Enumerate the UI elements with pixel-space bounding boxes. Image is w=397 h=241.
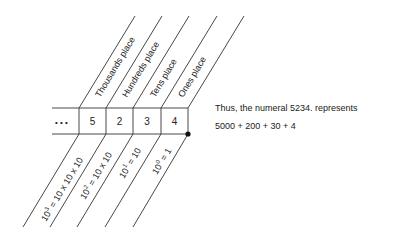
- label-ones-place: Ones place: [176, 55, 208, 99]
- digit-ones: 4: [172, 116, 178, 127]
- power-ones: 100 = 1: [149, 146, 173, 176]
- decimal-point-dot: [185, 131, 190, 136]
- caption-line-1: Thus, the numeral 5234. represents: [215, 103, 358, 113]
- digit-hundreds: 2: [117, 116, 123, 127]
- ellipsis-text: • • •: [55, 118, 68, 127]
- power-tens: 101 = 10: [116, 146, 143, 181]
- place-value-diagram: • • • 5 2 3 4 Thousands place Hundreds p…: [0, 0, 397, 241]
- digit-thousands: 5: [90, 116, 96, 127]
- digit-tens: 3: [144, 116, 150, 127]
- label-tens-place: Tens place: [148, 57, 179, 99]
- lower-slant-line: [133, 134, 188, 227]
- caption-line-2: 5000 + 200 + 30 + 4: [215, 121, 296, 131]
- power-thousands: 103 = 10 x 10 x 10: [38, 155, 85, 223]
